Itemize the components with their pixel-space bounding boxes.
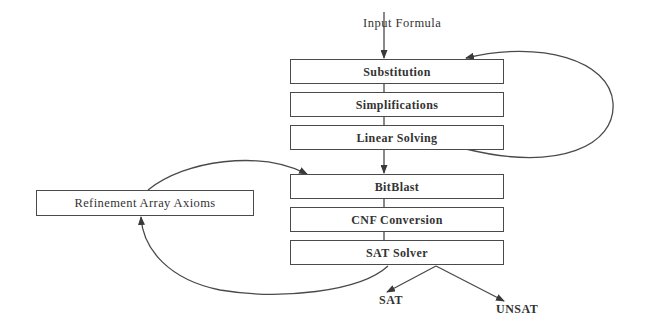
stage-bitblast: BitBlast xyxy=(290,174,504,199)
edge-sat-solver-to-sat xyxy=(387,266,436,292)
refinement-array-axioms-box: Refinement Array Axioms xyxy=(36,190,254,216)
stage-label: CNF Conversion xyxy=(351,213,443,228)
stage-linear-solving: Linear Solving xyxy=(290,125,504,150)
output-unsat-label: UNSAT xyxy=(496,302,538,317)
edge-sat-solver-to-unsat xyxy=(436,266,504,301)
stage-label: Linear Solving xyxy=(356,131,437,146)
input-formula-label: Input Formula xyxy=(363,16,441,31)
stage-label: BitBlast xyxy=(375,180,420,195)
refinement-label: Refinement Array Axioms xyxy=(74,196,215,211)
edge-refinement-to-bitblast xyxy=(148,161,307,190)
stage-label: Substitution xyxy=(363,65,431,80)
stage-simplifications: Simplifications xyxy=(290,92,504,117)
output-sat-label: SAT xyxy=(379,293,403,308)
stage-label: Simplifications xyxy=(356,98,439,113)
stage-substitution: Substitution xyxy=(290,59,504,84)
stage-cnf-conversion: CNF Conversion xyxy=(290,207,504,232)
stage-sat-solver: SAT Solver xyxy=(290,240,504,265)
flowchart-connectors xyxy=(0,0,646,331)
stage-label: SAT Solver xyxy=(366,246,428,261)
